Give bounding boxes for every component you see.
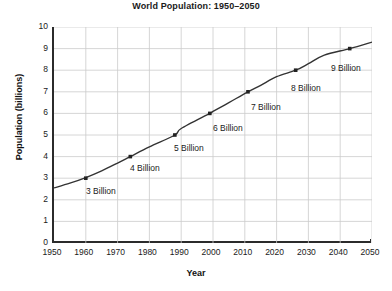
data-point-marker [246,90,250,94]
data-point-marker [294,68,298,72]
data-label: 4 Billion [130,163,160,173]
data-point-marker [129,155,133,159]
grid-lines [54,27,372,243]
plot-area [52,27,370,243]
data-point-marker [208,112,212,116]
data-label: 7 Billion [251,102,281,112]
plot-svg [54,27,372,243]
data-point-marker [348,47,352,51]
x-tick-label: 2050 [350,247,390,257]
data-point-marker [84,176,88,180]
data-point-marker [173,133,177,137]
data-label: 9 Billion [331,63,361,73]
data-label: 5 Billion [174,143,204,153]
data-label: 3 Billion [86,186,116,196]
population-chart: World Population: 1950–2050 Population (… [0,0,392,291]
data-label: 8 Billion [291,83,321,93]
data-label: 6 Billion [213,123,243,133]
